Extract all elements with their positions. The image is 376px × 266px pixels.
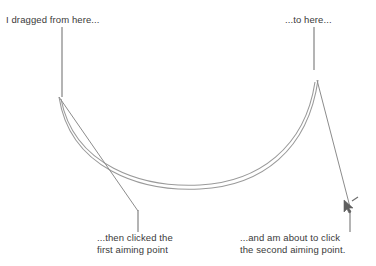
aiming-line-first (59, 97, 138, 211)
label-second-aiming-point: ...and am about to click the second aimi… (240, 232, 345, 256)
label-to-here: ...to here... (285, 14, 332, 26)
drag-diagram-svg (0, 0, 376, 266)
mouse-cursor-arrow-icon (344, 197, 358, 213)
label-first-aiming-point: ...then clicked the first aiming point (97, 232, 173, 256)
label-second-aiming-point-line1: ...and am about to click (240, 232, 345, 244)
aiming-line-second (317, 80, 350, 207)
label-first-aiming-point-line1: ...then clicked the (97, 232, 173, 244)
drag-curve-inner (61, 82, 315, 185)
drag-curve-outer (59, 80, 318, 189)
label-second-aiming-point-line2: the second aiming point. (240, 244, 345, 256)
label-first-aiming-point-line2: first aiming point (97, 244, 173, 256)
label-dragged-from: I dragged from here... (6, 14, 100, 26)
illustration-canvas: I dragged from here... ...to here... ...… (0, 0, 376, 266)
